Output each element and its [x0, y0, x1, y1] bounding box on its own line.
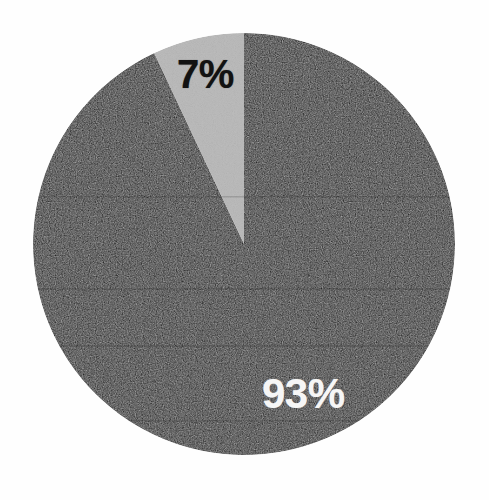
pie-slice-label-93: 93%	[262, 373, 345, 415]
pie-chart-figure: 7% 93%	[0, 0, 489, 500]
pie-chart-canvas	[0, 0, 489, 500]
pie-slice-label-7: 7%	[177, 54, 234, 94]
